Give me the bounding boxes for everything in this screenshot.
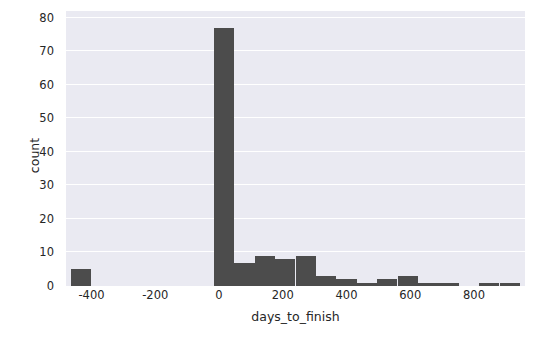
x-tick-label: -400 bbox=[78, 288, 104, 302]
histogram-bar bbox=[316, 276, 336, 286]
histogram-bar bbox=[275, 259, 295, 286]
y-tick-label: 10 bbox=[39, 245, 54, 259]
y-tick-label: 40 bbox=[39, 145, 54, 159]
y-tick-label: 0 bbox=[47, 279, 54, 293]
histogram-bar bbox=[255, 256, 275, 286]
x-tick-label: 0 bbox=[215, 288, 222, 302]
y-tick-label: 50 bbox=[39, 111, 54, 125]
gridline bbox=[66, 117, 525, 118]
y-tick-label: 60 bbox=[39, 78, 54, 92]
y-tick-label: 20 bbox=[39, 212, 54, 226]
x-tick-label: 600 bbox=[399, 288, 421, 302]
histogram-bar bbox=[377, 279, 397, 286]
histogram-bar bbox=[398, 276, 418, 286]
histogram-bar bbox=[357, 283, 377, 286]
x-tick-label: -200 bbox=[142, 288, 168, 302]
gridline bbox=[66, 84, 525, 85]
y-tick-label: 70 bbox=[39, 44, 54, 58]
histogram-bar bbox=[438, 283, 458, 286]
x-tick-label: 400 bbox=[336, 288, 358, 302]
x-axis-tick-labels: -400-2000200400600800 bbox=[66, 288, 525, 304]
histogram-bar bbox=[500, 283, 520, 286]
gridline bbox=[66, 218, 525, 219]
histogram-figure: 01020304050607080 count -400-20002004006… bbox=[0, 0, 540, 349]
histogram-bar bbox=[479, 283, 499, 286]
histogram-bar bbox=[336, 279, 356, 286]
plot-area bbox=[66, 11, 525, 286]
y-axis-label: count bbox=[27, 116, 42, 196]
x-axis-label: days_to_finish bbox=[66, 309, 525, 324]
histogram-bar bbox=[214, 28, 234, 286]
y-tick-label: 30 bbox=[39, 178, 54, 192]
gridline bbox=[66, 184, 525, 185]
x-tick-label: 200 bbox=[272, 288, 294, 302]
histogram-bar bbox=[234, 263, 254, 286]
histogram-bar bbox=[418, 283, 438, 286]
y-tick-label: 80 bbox=[39, 11, 54, 25]
histogram-bar bbox=[71, 269, 91, 286]
gridline bbox=[66, 50, 525, 51]
gridline bbox=[66, 151, 525, 152]
gridline bbox=[66, 17, 525, 18]
histogram-bar bbox=[296, 256, 316, 286]
gridline bbox=[66, 251, 525, 252]
x-tick-label: 800 bbox=[463, 288, 485, 302]
